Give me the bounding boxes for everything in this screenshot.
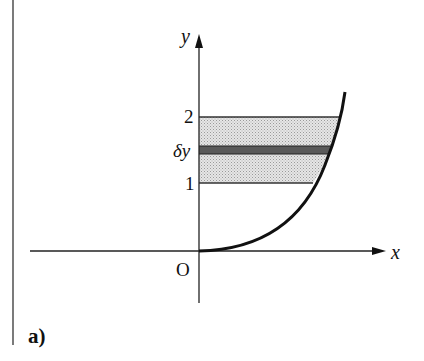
- y-axis-label: y: [181, 26, 190, 46]
- tick-label-2: 2: [184, 107, 194, 126]
- y-axis-arrow-icon: [195, 34, 203, 48]
- figure-caption: a): [28, 326, 46, 347]
- origin-label: O: [176, 260, 190, 279]
- x-axis-label: x: [391, 242, 400, 262]
- diagram-canvas: [0, 0, 424, 361]
- tick-label-1: 1: [185, 174, 195, 193]
- delta-y-label: δy: [173, 141, 190, 160]
- delta-y-strip: [199, 146, 332, 154]
- x-axis-arrow-icon: [372, 247, 386, 255]
